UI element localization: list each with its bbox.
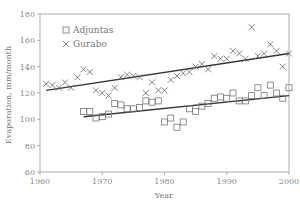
point-gurabo [93,87,99,93]
y-tick-label: 120 [20,89,35,98]
legend-label: Gurabo [73,39,107,49]
point-gurabo [68,85,74,91]
point-adjuntas [267,82,273,88]
x-tick-label: 1990 [217,177,237,186]
point-adjuntas [118,102,124,108]
point-gurabo [230,48,236,54]
legend-cross-icon [63,41,69,47]
point-gurabo [218,56,224,62]
trend-lines [46,54,289,117]
point-adjuntas [218,94,224,100]
point-gurabo [249,24,255,30]
point-adjuntas [87,108,93,114]
point-gurabo [174,73,180,79]
point-gurabo [124,72,130,78]
legend-square-icon [63,27,69,33]
legend-label: Adjuntas [72,25,114,35]
point-gurabo [74,74,80,80]
point-gurabo [162,87,168,93]
point-adjuntas [230,90,236,96]
point-gurabo [87,69,93,75]
point-adjuntas [112,101,118,107]
chart-legend: AdjuntasGurabo [63,25,114,49]
point-adjuntas [249,93,255,99]
point-gurabo [242,56,248,62]
point-gurabo [236,51,242,57]
point-adjuntas [224,95,230,101]
x-tick-label: 1970 [92,177,112,186]
point-gurabo [130,73,136,79]
point-gurabo [155,87,161,93]
point-adjuntas [81,108,87,114]
point-gurabo [186,69,192,75]
point-adjuntas [137,104,143,110]
point-gurabo [143,90,149,96]
x-tick-label: 2000 [279,177,299,186]
point-adjuntas [255,85,261,91]
point-gurabo [105,93,111,99]
point-adjuntas [211,95,217,101]
point-gurabo [211,53,217,59]
x-axis-label: Year [154,191,173,200]
trend-line-gurabo [46,54,289,91]
point-adjuntas [162,119,168,125]
point-gurabo [149,79,155,85]
point-gurabo [261,51,267,57]
y-tick-label: 80 [25,142,35,151]
point-adjuntas [149,99,155,105]
point-adjuntas [174,124,180,130]
point-gurabo [267,41,273,47]
point-adjuntas [193,108,199,114]
point-gurabo [43,81,49,87]
y-tick-label: 180 [20,10,35,19]
point-adjuntas [168,115,174,121]
point-gurabo [168,77,174,83]
x-tick-label: 1980 [154,177,174,186]
x-tick-label: 1960 [30,177,50,186]
point-adjuntas [124,106,130,112]
point-gurabo [180,70,186,76]
point-gurabo [274,48,280,54]
point-gurabo [205,66,211,72]
y-tick-label: 60 [25,168,35,177]
point-gurabo [62,79,68,85]
y-tick-label: 140 [20,63,35,72]
y-axis-label: Evaporation, mm/month [4,46,13,144]
point-gurabo [81,66,87,72]
point-gurabo [224,56,230,62]
point-adjuntas [180,119,186,125]
point-gurabo [280,64,286,70]
point-adjuntas [143,98,149,104]
point-adjuntas [155,98,161,104]
y-tick-label: 160 [20,36,35,45]
point-gurabo [99,90,105,96]
scatter-chart: 608010012014016018019601970198019902000 … [0,0,300,202]
point-gurabo [112,85,118,91]
point-adjuntas [274,90,280,96]
y-tick-label: 100 [20,115,35,124]
point-gurabo [49,82,55,88]
